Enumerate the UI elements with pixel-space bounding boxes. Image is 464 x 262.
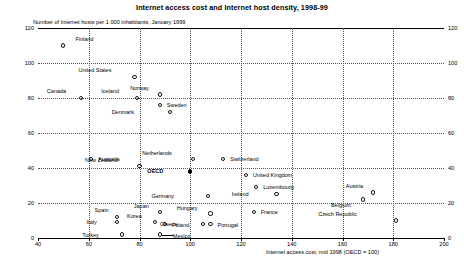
data-point <box>158 92 162 96</box>
y-tick-label-right: 120 <box>448 25 464 31</box>
data-point <box>158 210 162 214</box>
y-tick-label-right: 40 <box>448 165 464 171</box>
plot-area: 4060801001201401601802000020204040606080… <box>38 28 444 238</box>
point-label: Spain <box>95 207 109 213</box>
data-point <box>158 103 162 107</box>
data-point <box>191 157 195 161</box>
data-point <box>252 210 256 214</box>
data-point <box>244 173 248 177</box>
data-point <box>135 96 139 100</box>
y-tick-label-right: 0 <box>448 235 464 241</box>
data-point <box>274 192 278 196</box>
data-point <box>120 232 124 236</box>
data-point <box>168 110 172 114</box>
point-label: Mexico <box>173 233 190 239</box>
data-point <box>132 75 136 79</box>
y-tick-label-right: 20 <box>448 200 464 206</box>
point-label: Turkey <box>82 232 99 238</box>
point-label: Denmark <box>112 109 134 115</box>
x-tick-label: 140 <box>280 241 304 247</box>
x-tick-label: 120 <box>229 241 253 247</box>
point-label: Norway <box>130 85 149 91</box>
gridline-horizontal <box>38 63 444 64</box>
point-label: Italy <box>87 219 97 225</box>
data-point <box>394 218 398 222</box>
point-label: Belgium <box>331 202 351 208</box>
point-label: Czech Republic <box>318 211 357 217</box>
data-point <box>153 220 157 224</box>
y-tick-label-left: 0 <box>12 235 34 241</box>
data-point <box>115 220 119 224</box>
point-label: OECD <box>147 168 163 174</box>
gridline-horizontal <box>38 133 444 134</box>
point-label: Korea <box>127 213 142 219</box>
y-tick-label-right: 60 <box>448 130 464 136</box>
y-tick-label-right: 100 <box>448 60 464 66</box>
point-label: Finland <box>75 36 93 42</box>
data-point <box>371 190 375 194</box>
y-tick-label-left: 80 <box>12 95 34 101</box>
data-point <box>361 197 365 201</box>
gridline-horizontal <box>38 168 444 169</box>
data-point <box>188 169 192 173</box>
y-tick-label-left: 20 <box>12 200 34 206</box>
y-tick-label-right: 80 <box>448 95 464 101</box>
point-label: Greece <box>160 221 178 227</box>
point-label: Japan <box>134 203 149 209</box>
point-label: New Zealand <box>85 157 117 163</box>
point-label: Canada <box>47 88 66 94</box>
x-tick-label: 100 <box>178 241 202 247</box>
data-point <box>79 96 83 100</box>
x-tick-label: 160 <box>331 241 355 247</box>
data-point <box>201 222 205 226</box>
point-label: United States <box>78 67 111 73</box>
data-point <box>206 194 210 198</box>
point-label: Austria <box>346 183 363 189</box>
data-point <box>208 222 212 226</box>
y-axis-label: Number of Internet hosts per 1 000 inhab… <box>33 19 185 25</box>
point-label: United Kingdom <box>253 172 292 178</box>
data-point <box>221 157 225 161</box>
leader-line-mexico <box>162 235 173 236</box>
data-point <box>254 185 258 189</box>
data-point <box>137 164 141 168</box>
x-tick-label: 200 <box>432 241 456 247</box>
chart-figure: Internet access cost and Internet host d… <box>0 0 464 262</box>
data-point <box>208 211 212 215</box>
point-label: Netherlands <box>142 150 172 156</box>
point-label: Iceland <box>101 88 119 94</box>
gridline-horizontal <box>38 203 444 204</box>
point-label: Germany <box>151 193 174 199</box>
page-title: Internet access cost and Internet host d… <box>0 3 464 12</box>
point-label: Portugal <box>218 222 239 228</box>
point-label: Hungary <box>177 205 198 211</box>
data-point <box>61 43 65 47</box>
x-tick-label: 40 <box>26 241 50 247</box>
point-label: Ireland <box>232 191 249 197</box>
gridline-horizontal <box>38 98 444 99</box>
y-tick-label-left: 100 <box>12 60 34 66</box>
point-label: Switzerland <box>230 156 258 162</box>
x-axis-label: Internet access cost, mid 1998 (OECD = 1… <box>266 249 379 255</box>
point-label: Sweden <box>167 102 187 108</box>
y-tick-label-left: 40 <box>12 165 34 171</box>
data-point <box>115 215 119 219</box>
point-label: France <box>261 209 278 215</box>
x-tick-label: 60 <box>77 241 101 247</box>
y-tick-label-left: 60 <box>12 130 34 136</box>
x-tick-label: 180 <box>381 241 405 247</box>
point-label: Luxembourg <box>263 184 294 190</box>
y-tick-label-left: 120 <box>12 25 34 31</box>
x-tick-label: 80 <box>128 241 152 247</box>
